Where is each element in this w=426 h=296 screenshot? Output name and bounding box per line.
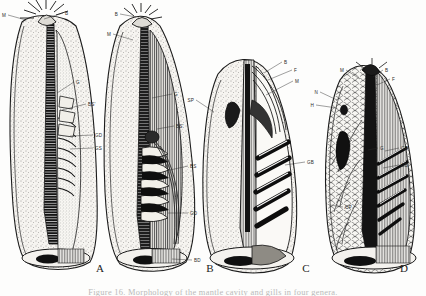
- leader-line-c-b: [264, 62, 282, 73]
- figure-plate: MBGBS'GDGSBMGBS'BSGDBDSPBFMGBMBFNHGGRGBC…: [0, 0, 426, 296]
- label-b-bs: BS: [190, 164, 197, 169]
- label-b-m: M: [107, 32, 111, 37]
- panel-c-base-lumen: [224, 256, 256, 266]
- panel-letter-c: C: [302, 262, 309, 274]
- illustration-canvas: MBGBS'GDGSBMGBS'BSGDBDSPBFMGBMBFNHGGRGBC…: [0, 0, 426, 296]
- leader-line-a-m: [8, 15, 26, 20]
- panel-b-figure: [104, 3, 195, 271]
- label-d-m: M: [340, 68, 344, 73]
- label-b-b: B: [115, 12, 118, 17]
- label-d-b: B: [385, 68, 388, 73]
- panel-b-nodule: [145, 131, 159, 143]
- label-a-gd: GD: [95, 133, 103, 138]
- panel-d-organ-upper: [340, 105, 347, 115]
- panel-c-figure: [203, 59, 297, 273]
- label-a-b: B: [65, 11, 68, 16]
- label-d-f: F: [392, 77, 395, 82]
- panel-a-base-hatch: [58, 249, 84, 263]
- panel-a-plates: [58, 96, 75, 137]
- panel-a-figure: [10, 0, 97, 270]
- label-b-gd: GD: [190, 211, 198, 216]
- leader-line-c-f: [268, 70, 292, 80]
- panel-c-dark-core: [245, 64, 250, 232]
- label-c-m: M: [295, 79, 299, 84]
- label-d-h: H: [310, 103, 314, 108]
- label-d-n: N: [314, 90, 318, 95]
- panel-a-base-lumen: [36, 255, 60, 264]
- panel-letter-b: B: [206, 262, 213, 274]
- label-a-gs: GS: [95, 146, 102, 151]
- panel-d-base-lumen: [344, 256, 376, 266]
- label-c-sp: SP: [187, 98, 194, 103]
- label-b-g: G: [174, 92, 178, 97]
- label-c-f: F: [294, 68, 297, 73]
- panel-letter-a: A: [96, 262, 104, 274]
- panel-letter-d: D: [400, 262, 408, 274]
- label-a-g: G: [76, 80, 80, 85]
- label-b-bsp: BS': [176, 124, 184, 129]
- label-a-bsp: BS': [88, 102, 96, 107]
- label-c-gb: GB: [307, 160, 314, 165]
- panel-d-base-hatch: [376, 246, 410, 263]
- figure-caption: Figure 16. Morphology of the mantle cavi…: [0, 287, 426, 296]
- panel-b-base-hatch: [152, 249, 180, 263]
- label-d-gr: GR: [401, 146, 409, 151]
- label-b-bd: BD: [194, 258, 201, 263]
- label-a-m: M: [2, 13, 6, 18]
- label-d-gb: GB: [401, 163, 408, 168]
- label-d-g: G: [380, 146, 384, 151]
- label-d-cp: CP: [345, 205, 352, 210]
- label-c-b: B: [284, 60, 287, 65]
